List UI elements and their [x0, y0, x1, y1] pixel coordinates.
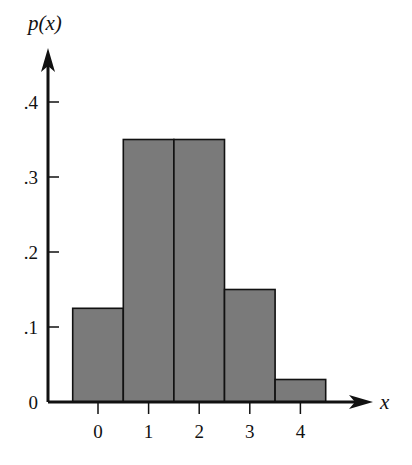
x-tick-label: 4 [296, 421, 306, 442]
x-axis-label: x [379, 390, 390, 414]
y-tick-label: .4 [24, 92, 39, 113]
bar-0 [73, 308, 124, 402]
bar-3 [225, 290, 276, 403]
x-tick-label: 0 [93, 421, 103, 442]
x-ticks-group: 01234 [93, 402, 305, 442]
x-tick-label: 1 [144, 421, 154, 442]
probability-histogram: 0.1.2.3.4 01234 p(x) x [0, 0, 412, 465]
y-tick-label: .1 [24, 317, 38, 338]
y-tick-label: .3 [24, 167, 38, 188]
y-ticks-group: 0.1.2.3.4 [24, 92, 59, 413]
y-tick-label: 0 [29, 392, 39, 413]
x-tick-label: 3 [245, 421, 255, 442]
y-tick-label: .2 [24, 242, 38, 263]
x-tick-label: 2 [194, 421, 204, 442]
bars-group [73, 140, 326, 403]
bar-4 [275, 380, 326, 403]
y-axis-label: p(x) [26, 11, 62, 35]
bar-1 [123, 140, 174, 403]
bar-2 [174, 140, 225, 403]
